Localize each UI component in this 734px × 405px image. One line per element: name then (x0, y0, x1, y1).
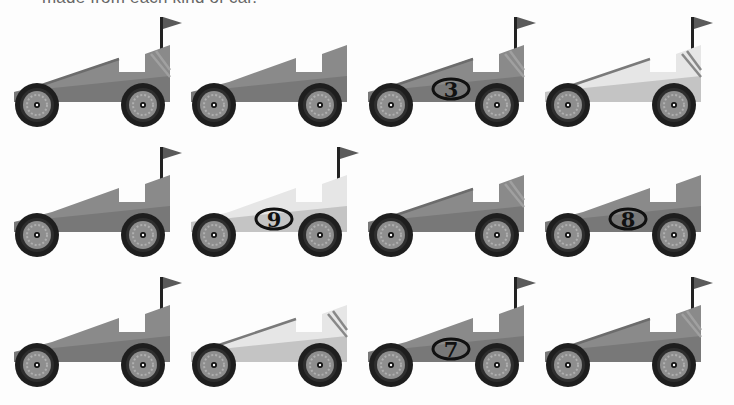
rear-wheel (121, 343, 165, 387)
race-car-10 (189, 272, 369, 397)
rear-wheel (298, 343, 342, 387)
rear-wheel (298, 83, 342, 127)
front-wheel (15, 213, 59, 257)
front-wheel (15, 343, 59, 387)
front-wheel (369, 343, 413, 387)
rear-wheel (121, 213, 165, 257)
race-car-9 (12, 272, 192, 397)
race-car-12 (543, 272, 723, 397)
front-wheel (192, 83, 236, 127)
front-wheel (369, 83, 413, 127)
race-car-3: 3 (366, 12, 546, 137)
front-wheel (192, 343, 236, 387)
rear-wheel (652, 343, 696, 387)
front-wheel (369, 213, 413, 257)
front-wheel (192, 213, 236, 257)
rear-wheel (652, 213, 696, 257)
race-car-7 (366, 142, 546, 267)
race-car-8: 8 (543, 142, 723, 267)
front-wheel (15, 83, 59, 127)
caption-text: made from each kind of car. (42, 0, 257, 8)
rear-wheel (652, 83, 696, 127)
svg-text:7: 7 (444, 337, 459, 362)
race-car-1 (12, 12, 192, 137)
svg-text:3: 3 (444, 77, 459, 102)
rear-wheel (121, 83, 165, 127)
rear-wheel (475, 343, 519, 387)
rear-wheel (475, 213, 519, 257)
front-wheel (546, 213, 590, 257)
race-car-6: 9 (189, 142, 369, 267)
front-wheel (546, 343, 590, 387)
race-car-2 (189, 12, 369, 137)
race-car-11: 7 (366, 272, 546, 397)
svg-text:9: 9 (267, 207, 282, 232)
race-car-4 (543, 12, 723, 137)
front-wheel (546, 83, 590, 127)
rear-wheel (298, 213, 342, 257)
svg-text:8: 8 (621, 207, 636, 232)
rear-wheel (475, 83, 519, 127)
race-car-5 (12, 142, 192, 267)
